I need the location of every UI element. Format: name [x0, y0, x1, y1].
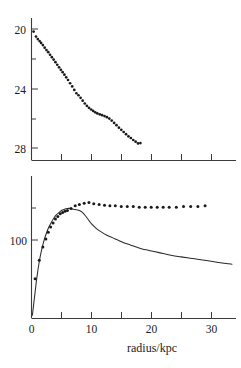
- data-point: [113, 122, 116, 125]
- data-point: [126, 205, 129, 208]
- data-point: [86, 104, 89, 107]
- data-point: [61, 71, 64, 74]
- data-point: [120, 205, 123, 208]
- data-point: [83, 202, 86, 205]
- data-point: [115, 124, 118, 127]
- data-point: [75, 92, 78, 95]
- bottom-panel-y-tick-labels: 100: [10, 235, 28, 247]
- data-point: [34, 277, 37, 280]
- bottom-x-label-20: 20: [146, 323, 158, 335]
- data-point: [45, 49, 48, 52]
- data-point: [130, 137, 133, 140]
- data-point: [41, 245, 44, 248]
- data-point: [96, 112, 99, 115]
- data-point: [138, 206, 141, 209]
- data-point: [106, 116, 109, 119]
- data-point: [56, 215, 59, 218]
- data-point: [36, 38, 39, 41]
- data-point: [103, 204, 106, 207]
- data-point: [65, 76, 68, 79]
- data-point: [196, 205, 199, 208]
- top-panel-y-ticks: [32, 29, 39, 148]
- data-point: [92, 202, 95, 205]
- data-point: [108, 204, 111, 207]
- figure-container: 20 24 28: [0, 0, 241, 368]
- data-point: [98, 113, 101, 116]
- data-point: [118, 126, 121, 129]
- data-point: [101, 114, 104, 117]
- data-point: [87, 201, 90, 204]
- data-point: [51, 56, 54, 59]
- top-panel-x-ticks: [62, 154, 212, 161]
- data-point: [47, 231, 50, 234]
- data-point: [38, 259, 41, 262]
- data-point: [69, 82, 72, 85]
- data-point: [103, 115, 106, 118]
- data-point: [67, 79, 70, 82]
- bottom-x-label-10: 10: [86, 323, 98, 335]
- bottom-panel-axes: [32, 176, 237, 319]
- top-panel: 20 24 28: [15, 18, 237, 161]
- data-point: [56, 63, 59, 66]
- top-panel-y-tick-labels: 20 24 28: [15, 24, 27, 155]
- data-point: [77, 94, 80, 97]
- data-point: [162, 206, 165, 209]
- top-y-label-28: 28: [15, 143, 27, 155]
- data-point: [47, 51, 50, 54]
- data-point: [120, 129, 123, 132]
- data-point: [83, 102, 86, 105]
- data-point: [189, 205, 192, 208]
- data-point: [168, 206, 171, 209]
- data-point: [54, 218, 57, 221]
- data-point: [58, 66, 61, 69]
- data-point: [44, 237, 47, 240]
- data-point: [98, 203, 101, 206]
- data-point: [79, 96, 82, 99]
- data-point: [114, 204, 117, 207]
- data-point: [175, 206, 178, 209]
- data-point: [144, 206, 147, 209]
- top-y-label-24: 24: [15, 84, 27, 96]
- bottom-x-label-0: 0: [29, 323, 35, 335]
- data-point: [70, 207, 73, 210]
- bottom-panel: 100 0 10 20 30 radius/kpc: [10, 176, 236, 355]
- bottom-x-label-30: 30: [206, 323, 218, 335]
- data-point: [127, 135, 130, 138]
- data-point: [40, 42, 43, 45]
- data-point: [66, 209, 69, 212]
- data-point: [49, 226, 52, 229]
- data-point: [78, 203, 81, 206]
- data-point: [63, 73, 66, 76]
- data-point: [32, 30, 35, 33]
- data-point: [134, 140, 137, 143]
- data-point: [43, 46, 46, 49]
- data-point: [137, 142, 140, 145]
- data-point: [73, 89, 76, 92]
- bottom-panel-x-ticks: [62, 312, 212, 319]
- model-rotation-curve: [32, 208, 232, 315]
- data-point: [132, 139, 135, 142]
- data-point: [108, 117, 111, 120]
- bottom-panel-x-tick-labels: 0 10 20 30: [29, 323, 218, 335]
- data-point: [52, 58, 55, 61]
- data-point: [59, 69, 62, 72]
- data-point: [110, 119, 113, 122]
- bottom-panel-y-ticks: [32, 208, 39, 240]
- data-point: [132, 205, 135, 208]
- bottom-y-label-100: 100: [10, 235, 28, 247]
- top-y-label-20: 20: [15, 24, 27, 36]
- data-point: [42, 44, 45, 47]
- x-axis-title: radius/kpc: [127, 341, 177, 355]
- data-point: [74, 204, 77, 207]
- data-point: [125, 133, 128, 136]
- data-point: [88, 106, 91, 109]
- data-point: [150, 206, 153, 209]
- data-point: [182, 205, 185, 208]
- data-point: [52, 222, 55, 225]
- data-point: [204, 204, 207, 207]
- data-point: [71, 85, 74, 88]
- data-point: [54, 61, 57, 64]
- astronomy-figure: 20 24 28: [0, 0, 241, 368]
- data-point: [139, 142, 142, 145]
- top-panel-data-points: [32, 30, 142, 145]
